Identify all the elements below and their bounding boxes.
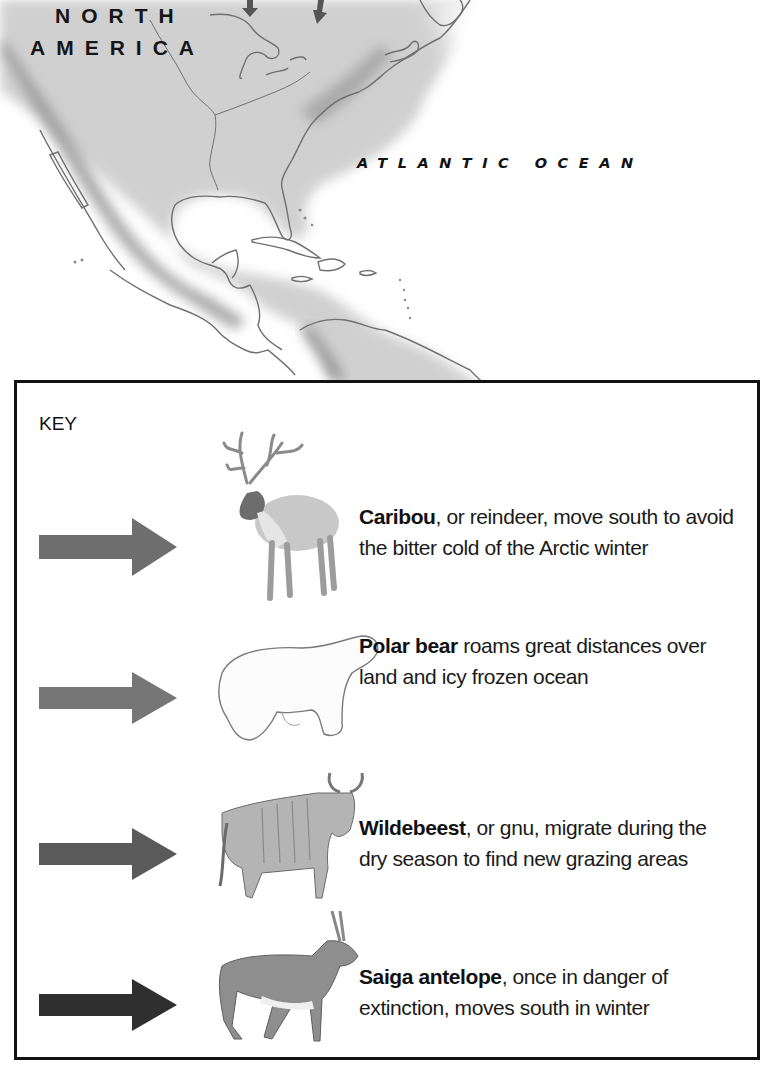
migration-arrow-icon — [37, 518, 177, 576]
saiga-antelope-icon — [202, 911, 372, 1057]
map-key-legend: KEY Caribou, or reindeer, move south to … — [14, 380, 760, 1060]
migration-arrow-icon — [37, 828, 177, 880]
key-entry-wildebeest: Wildebeest, or gnu, migrate during the d… — [17, 768, 757, 908]
polar-bear-icon — [202, 628, 382, 748]
caribou-name: Caribou — [359, 505, 436, 528]
key-entry-caribou: Caribou, or reindeer, move south to avoi… — [17, 423, 757, 613]
wildebeest-name: Wildebeest — [359, 816, 466, 839]
wildebeest-description: Wildebeest, or gnu, migrate during the d… — [359, 812, 739, 874]
key-entry-saiga-antelope: Saiga antelope, once in danger of extinc… — [17, 911, 757, 1057]
continent-label: NORTH — [55, 4, 185, 28]
migration-arrow-icon — [37, 979, 177, 1031]
caribou-description: Caribou, or reindeer, move south to avoi… — [359, 501, 739, 563]
map-area: NORTH AMERICA ATLANTIC OCEAN — [0, 0, 762, 400]
map-shaded-relief — [0, 0, 762, 400]
continent-label: AMERICA — [30, 36, 205, 60]
polar-bear-description: Polar bear roams great distances over la… — [359, 630, 739, 692]
saiga-antelope-description: Saiga antelope, once in danger of extinc… — [359, 961, 739, 1023]
ocean-label: ATLANTIC OCEAN — [357, 155, 644, 171]
wildebeest-icon — [202, 768, 372, 908]
caribou-icon — [202, 423, 362, 613]
saiga-antelope-name: Saiga antelope — [359, 965, 502, 988]
polar-bear-name: Polar bear — [359, 634, 458, 657]
migration-arrow-icon — [37, 672, 177, 724]
key-entry-polar-bear: Polar bear roams great distances over la… — [17, 628, 757, 758]
